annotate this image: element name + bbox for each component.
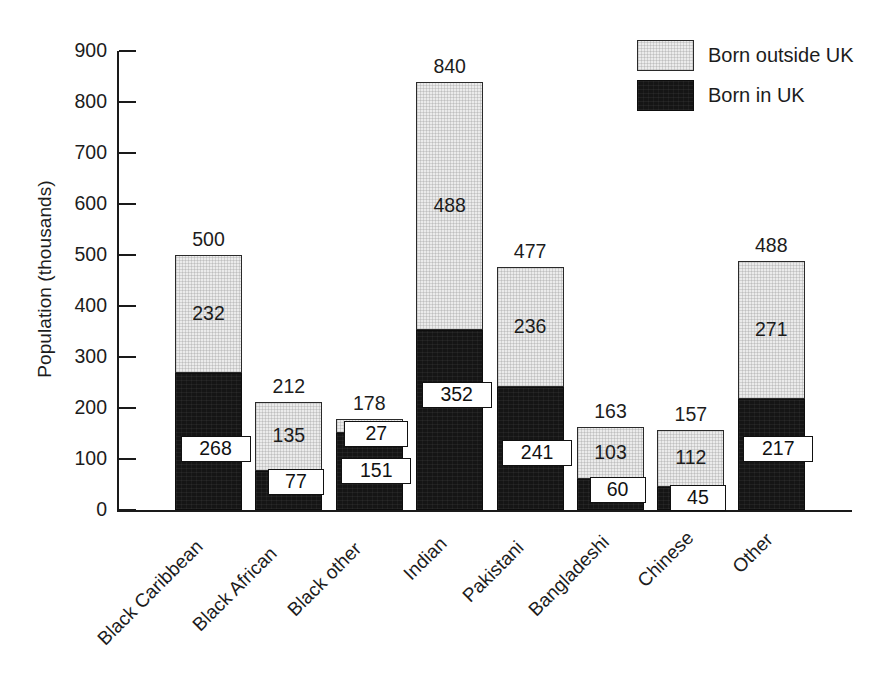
bar-segment-label-outside: 135 bbox=[235, 425, 342, 446]
bar-segment-label-inuk: 45 bbox=[670, 485, 726, 511]
bar-total-label: 157 bbox=[637, 404, 744, 425]
bar-segment-label-inuk: 77 bbox=[268, 469, 324, 495]
bar-total-label: 477 bbox=[477, 241, 584, 262]
legend-label-inuk: Born in UK bbox=[708, 81, 805, 109]
bar-segment-label-outside: 271 bbox=[718, 319, 825, 340]
bar-segment-label-inuk: 352 bbox=[422, 382, 492, 408]
legend-swatch-icon-outside bbox=[637, 40, 694, 71]
bar-segment-label-inuk: 217 bbox=[743, 436, 813, 462]
bar-segment-label-inuk: 60 bbox=[590, 477, 646, 503]
bar-segment-label-outside: 112 bbox=[637, 447, 744, 468]
bar-segment-born-in-uk[interactable] bbox=[416, 330, 483, 510]
bar-segment-label-outside: 27 bbox=[344, 421, 408, 447]
bar-group[interactable] bbox=[738, 261, 805, 510]
bar-segment-label-inuk: 151 bbox=[341, 458, 411, 484]
bar-segment-label-outside: 488 bbox=[396, 195, 503, 216]
legend-label-outside: Born outside UK bbox=[708, 41, 854, 69]
legend-swatch-icon-inuk bbox=[637, 80, 694, 111]
bar-segment-label-outside: 236 bbox=[477, 316, 584, 337]
bar-total-label: 488 bbox=[718, 235, 825, 256]
bar-segment-label-outside: 232 bbox=[155, 303, 262, 324]
bar-group[interactable] bbox=[416, 82, 483, 510]
bar-group[interactable] bbox=[175, 255, 242, 510]
bar-group[interactable] bbox=[497, 267, 564, 510]
bar-total-label: 500 bbox=[155, 229, 262, 250]
stacked-bar-chart: Population (thousands) 01002003004005006… bbox=[0, 0, 889, 677]
bar-total-label: 840 bbox=[396, 56, 503, 77]
bar-total-label: 178 bbox=[316, 393, 423, 414]
